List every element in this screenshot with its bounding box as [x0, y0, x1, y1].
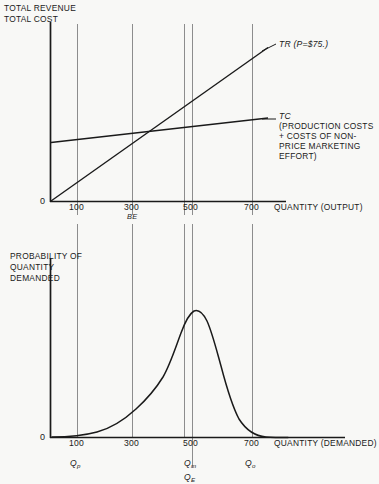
marker-label-qp: Qp	[70, 452, 81, 470]
upper-y-axis-label-line2: TOTAL COST	[4, 15, 58, 24]
marker-label-qo-base: Q	[245, 458, 252, 468]
tc-note-line-1: (PRODUCTION COSTS	[279, 122, 374, 131]
lower-xtick-100: 100	[69, 439, 84, 449]
marker-label-qp-base: Q	[70, 458, 77, 468]
tr-leader-line	[262, 44, 276, 51]
upper-xtick-500: 500	[183, 203, 198, 213]
lower-xtick-300: 300	[124, 439, 139, 449]
lower-x-axis-title: QUANTITY (DEMANDED)	[274, 439, 377, 448]
lower-origin-label: 0	[40, 432, 45, 442]
lower-y-axis-label-line2: QUANTITY	[10, 263, 54, 272]
lower-xtick-700: 700	[244, 439, 259, 449]
tc-note-line-2: + COSTS OF NON-	[279, 132, 357, 141]
upper-xtick-100: 100	[69, 203, 84, 213]
lower-xtick-500: 500	[183, 439, 198, 449]
tr-series-label: TR (P=$75.)	[279, 40, 328, 50]
gridline-group	[78, 24, 253, 468]
upper-x-axis-title: QUANTITY (OUTPUT)	[274, 203, 363, 212]
upper-origin-label: 0	[40, 196, 45, 206]
lower-axes	[50, 258, 345, 438]
marker-label-qp-sub: p	[77, 462, 81, 469]
tc-note-line-3: PRICE MARKETING	[279, 142, 360, 151]
marker-label-qe: QE	[184, 466, 195, 484]
upper-y-axis-label-line1: TOTAL REVENUE	[4, 4, 76, 13]
upper-xtick-700: 700	[244, 203, 259, 213]
marker-label-qe-sub: E	[191, 476, 195, 483]
upper-axes	[50, 22, 286, 202]
total-cost-line	[51, 118, 268, 143]
lower-y-axis-label-line3: DEMANDED	[10, 274, 60, 283]
lower-y-axis-label-line1: PROBABILITY OF	[10, 252, 82, 261]
marker-label-qo: Qo	[245, 452, 256, 470]
marker-label-qe-base: Q	[184, 472, 191, 482]
break-even-label: BE	[127, 213, 137, 221]
marker-label-qo-sub: o	[252, 462, 256, 469]
tc-note-line-4: EFFORT)	[279, 152, 317, 161]
total-revenue-line	[51, 48, 268, 202]
